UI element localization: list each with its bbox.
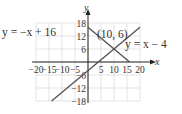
line1-label: y = −x + 16 bbox=[2, 26, 56, 39]
y-tick-label: −12 bbox=[71, 84, 86, 94]
x-tick-label: 10 bbox=[109, 65, 119, 75]
intersection-label: (10, 6) bbox=[97, 28, 128, 41]
y-tick-label: 18 bbox=[77, 19, 87, 29]
x-axis-label: x bbox=[154, 56, 160, 67]
linear-system-graph: −20−15−10−5510152018126−6−12−18 y = −x +… bbox=[0, 0, 182, 114]
y-tick-label: 6 bbox=[81, 45, 86, 55]
x-tick-label: −10 bbox=[55, 65, 70, 75]
y-tick-label: −18 bbox=[71, 97, 86, 107]
y-axis-label: y bbox=[83, 2, 89, 13]
y-tick-label: 12 bbox=[77, 32, 87, 42]
line2-label: y = x − 4 bbox=[125, 38, 167, 51]
x-tick-label: 15 bbox=[122, 65, 132, 75]
x-tick-label: 5 bbox=[99, 65, 104, 75]
x-tick-label: 20 bbox=[135, 65, 145, 75]
